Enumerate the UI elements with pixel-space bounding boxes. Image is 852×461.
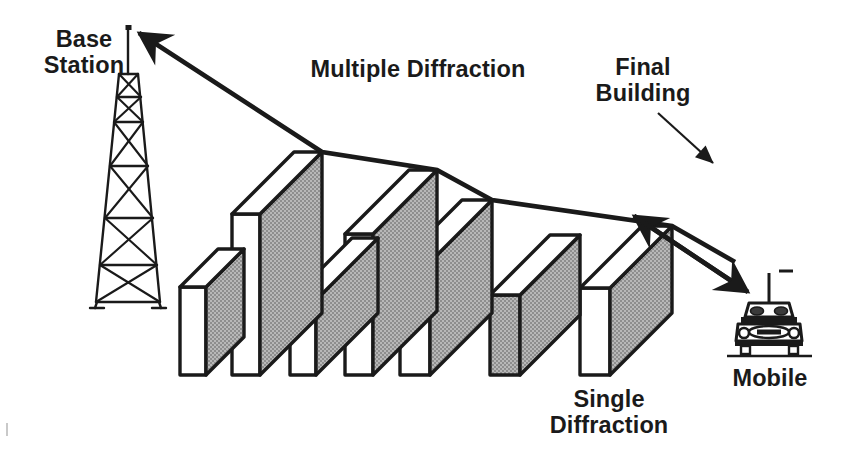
building-7-end-face [580,288,610,375]
final-building-arrow [658,113,713,163]
building-6-end-face [490,295,520,375]
car-wheel-right [789,346,798,354]
label-multiple-diffraction: Multiple Diffraction [296,56,540,82]
tower-leg-left [96,74,119,302]
scan-artifact [6,423,8,436]
label-mobile: Mobile [710,365,830,391]
diagram-canvas: Base Station Multiple Diffraction Final … [0,0,852,461]
car-windshield-left [751,307,764,315]
car-windshield-right [775,307,788,315]
car-headlight-left [739,328,749,338]
car-grille-bar [757,330,781,335]
building-6 [490,235,580,375]
label-final-building: Final Building [578,54,708,107]
building-1-end-face [180,287,206,375]
car-wheel-left [741,346,750,354]
building-7-final [580,226,672,375]
final-building-leader [658,113,713,163]
car-headlight-right [789,328,799,338]
tower-leg-right [138,74,160,302]
label-base-station: Base Station [26,26,142,79]
label-single-diffraction: Single Diffraction [530,386,688,439]
